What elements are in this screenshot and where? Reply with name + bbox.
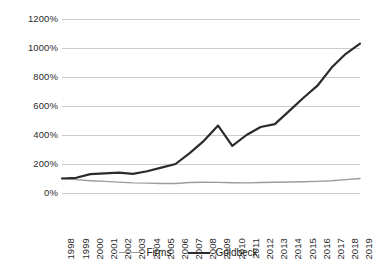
legend-label: Goldbeck <box>215 247 257 258</box>
y-axis: 0%200%400%600%800%1000%1200% <box>0 0 58 205</box>
y-tick-label: 1000% <box>0 43 58 53</box>
series-layer <box>62 44 360 184</box>
plot-area: 0%200%400%600%800%1000%1200% 19981999200… <box>0 0 377 205</box>
line-chart: 0%200%400%600%800%1000%1200% 19981999200… <box>0 0 377 262</box>
y-tick-label: 800% <box>0 72 58 82</box>
chart-legend: FirmsGoldbeck <box>0 243 377 262</box>
legend-swatch-goldbeck-icon <box>188 252 210 254</box>
legend-label: Firms <box>146 247 171 258</box>
y-tick-label: 1200% <box>0 14 58 24</box>
y-tick-label: 600% <box>0 101 58 111</box>
legend-item-firms[interactable]: Firms <box>119 247 171 258</box>
series-line-goldbeck <box>62 44 360 179</box>
legend-item-goldbeck[interactable]: Goldbeck <box>188 247 257 258</box>
series-line-firms <box>62 179 360 184</box>
legend-swatch-firms-icon <box>119 252 141 253</box>
y-tick-label: 200% <box>0 159 58 169</box>
gridlines <box>62 19 360 193</box>
x-axis: 1998199920002001200220032004200520062007… <box>0 196 377 244</box>
y-tick-label: 400% <box>0 130 58 140</box>
